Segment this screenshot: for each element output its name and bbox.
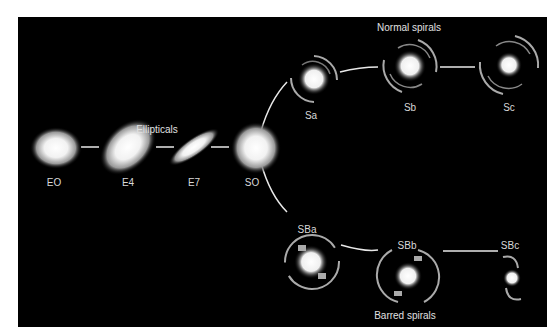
galaxy-sc-icon xyxy=(480,36,538,94)
barred-spirals-heading: Barred spirals xyxy=(374,310,436,321)
label-sb: Sb xyxy=(404,102,416,113)
label-sbb: SBb xyxy=(398,240,417,251)
label-sc: Sc xyxy=(503,102,515,113)
galaxy-sb-icon xyxy=(383,40,436,92)
galaxy-sba-icon xyxy=(285,235,339,289)
normal-spirals-heading: Normal spirals xyxy=(377,22,441,33)
galaxy-e4-icon xyxy=(89,108,167,186)
label-e7: E7 xyxy=(188,177,200,188)
galaxy-s0-icon xyxy=(231,122,281,174)
label-sba: SBa xyxy=(298,224,317,235)
label-e4: E4 xyxy=(122,177,134,188)
galaxy-sbc-icon xyxy=(503,256,521,299)
galaxy-e0-icon xyxy=(30,127,82,169)
label-s0: SO xyxy=(245,177,259,188)
label-sa: Sa xyxy=(305,110,317,121)
galaxy-sa-icon xyxy=(291,56,337,102)
ellipticals-heading: Ellipticals xyxy=(136,124,178,135)
label-sbc: SBc xyxy=(501,240,519,251)
galaxy-sbb-icon xyxy=(377,250,439,302)
label-e0: EO xyxy=(47,177,61,188)
tuning-fork-artwork xyxy=(0,0,558,333)
